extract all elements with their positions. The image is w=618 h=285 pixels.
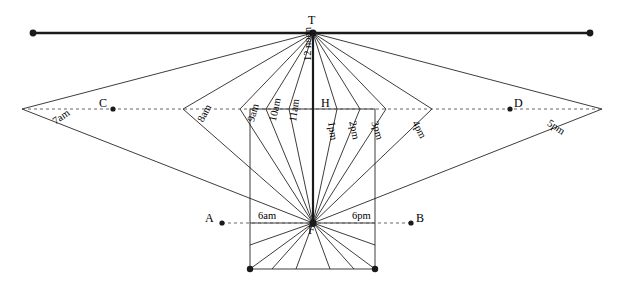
hour-ray-lower-7am — [22, 109, 313, 223]
hour-ray-upper-7am — [22, 33, 313, 109]
point-label-H: H — [321, 97, 330, 109]
point-label-A: A — [205, 212, 214, 224]
sundial-diagram-canvas: THFCDAB7am8am9am10am11am12 noon1pm2pm3pm… — [0, 0, 618, 285]
horizon-right-endpoint-dot — [587, 30, 594, 37]
point-label-D: D — [514, 97, 523, 109]
plate-corner-dot-0 — [247, 266, 253, 272]
point-dot-A — [219, 220, 224, 225]
hour-label-6pm: 6pm — [352, 211, 371, 222]
foot-ray-1 — [250, 223, 313, 269]
foot-ray-4 — [313, 223, 330, 269]
point-label-T: T — [308, 14, 315, 26]
hour-ray-lower-8am — [183, 109, 313, 223]
point-dot-B — [408, 220, 413, 225]
hour-label-6am: 6am — [258, 211, 276, 222]
hour-ray-upper-5pm — [313, 33, 602, 109]
point-dot-D — [507, 106, 512, 111]
hour-ray-lower-10am — [266, 109, 313, 223]
hour-ray-lower-11am — [289, 109, 313, 223]
hour-ray-upper-4pm — [313, 33, 432, 109]
point-label-C: C — [99, 97, 107, 109]
point-label-F: F — [308, 224, 315, 236]
horizon-left-endpoint-dot — [30, 30, 37, 37]
foot-ray-6 — [313, 223, 375, 269]
point-dot-C — [110, 106, 115, 111]
hour-ray-lower-9am — [240, 109, 313, 223]
point-label-B: B — [416, 212, 424, 224]
hour-label-1pm: 1pm — [326, 121, 339, 141]
plate-corner-dot-1 — [372, 266, 378, 272]
hour-ray-upper-8am — [183, 33, 313, 109]
hour-label-12-noon: 12 noon — [303, 27, 314, 61]
